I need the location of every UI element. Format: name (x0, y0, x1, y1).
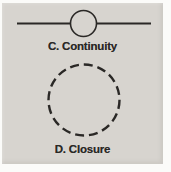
continuity-caption: C. Continuity (2, 40, 163, 52)
continuity-circle (71, 11, 97, 37)
scanned-page: C. Continuity D. Closure (0, 0, 171, 172)
closure-dashed-circle (49, 65, 120, 136)
closure-figure: D. Closure (2, 61, 163, 164)
figure-panel: C. Continuity D. Closure (2, 3, 163, 164)
closure-caption: D. Closure (2, 143, 163, 155)
continuity-diagram (2, 3, 163, 61)
continuity-figure: C. Continuity (2, 3, 163, 61)
